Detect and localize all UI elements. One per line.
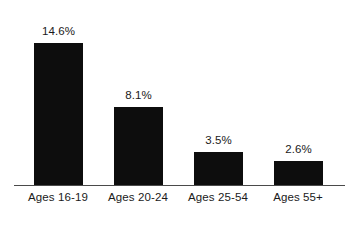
bar[interactable] xyxy=(34,43,83,186)
category-label: Ages 20-24 xyxy=(93,188,183,206)
bar-group: 2.6% xyxy=(274,0,323,186)
category-axis-labels: Ages 16-19 Ages 20-24 Ages 25-54 Ages 55… xyxy=(0,188,358,212)
bar-group: 14.6% xyxy=(34,0,83,186)
x-axis-line xyxy=(14,185,345,186)
bar-value-label: 2.6% xyxy=(260,143,337,155)
bar-value-label: 14.6% xyxy=(20,25,97,37)
bar-chart: 14.6% 8.1% 3.5% 2.6% Ages 16-19 Ages 20-… xyxy=(0,0,358,229)
bar[interactable] xyxy=(114,107,163,186)
category-label: Ages 55+ xyxy=(253,188,343,206)
bar-group: 3.5% xyxy=(194,0,243,186)
category-label: Ages 25-54 xyxy=(173,188,263,206)
bar-value-label: 3.5% xyxy=(180,134,257,146)
bar[interactable] xyxy=(274,161,323,186)
bar-value-label: 8.1% xyxy=(100,89,177,101)
bar[interactable] xyxy=(194,152,243,186)
category-label: Ages 16-19 xyxy=(13,188,103,206)
plot-area: 14.6% 8.1% 3.5% 2.6% xyxy=(0,0,358,186)
bar-group: 8.1% xyxy=(114,0,163,186)
